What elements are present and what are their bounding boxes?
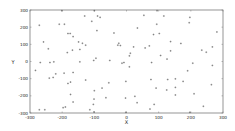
data-point-marker <box>105 97 107 99</box>
data-point-marker <box>174 87 176 89</box>
data-point-marker <box>128 66 130 68</box>
data-point-marker <box>72 36 74 38</box>
data-point-marker <box>70 81 72 83</box>
data-point-marker <box>67 83 69 85</box>
data-point-marker <box>97 15 99 17</box>
y-tick-label: -300 <box>18 111 28 116</box>
data-point-marker <box>133 46 135 48</box>
data-point-marker <box>38 24 40 26</box>
data-point-marker <box>134 95 136 97</box>
data-point-marker <box>78 41 80 43</box>
data-point-marker <box>99 16 101 18</box>
data-point-marker <box>43 41 45 43</box>
data-point-marker <box>205 51 207 53</box>
data-point-marker <box>156 23 158 25</box>
x-axis-label: X <box>125 119 129 125</box>
data-point-marker <box>58 23 60 25</box>
data-point-marker <box>72 49 74 51</box>
data-point-marker <box>89 109 91 111</box>
data-point-marker <box>144 47 146 49</box>
data-point-marker <box>82 42 84 44</box>
data-point-marker <box>93 90 95 92</box>
y-tick-label: 0 <box>25 59 28 64</box>
data-point-marker <box>39 62 41 64</box>
data-point-marker <box>95 57 97 59</box>
data-point-marker <box>69 33 71 35</box>
data-point-marker <box>170 50 172 52</box>
data-point-marker <box>163 15 165 17</box>
x-tick-label: 300 <box>219 115 227 120</box>
data-point-marker <box>182 81 184 83</box>
data-point-marker <box>96 30 98 32</box>
data-point-marker <box>153 104 155 106</box>
data-point-marker <box>150 79 152 81</box>
data-point-marker <box>52 77 54 79</box>
data-point-marker <box>38 109 40 111</box>
data-point-marker <box>216 31 218 33</box>
data-point-marker <box>113 32 115 34</box>
data-point-marker <box>202 105 204 107</box>
data-point-marker <box>92 104 94 106</box>
data-point-marker <box>53 61 55 63</box>
y-axis-ticks: -300-200-1000100200300 <box>18 8 223 116</box>
y-axis-label: Y <box>10 59 15 65</box>
y-tick-label: -200 <box>18 93 28 98</box>
data-point-marker <box>35 70 37 72</box>
data-point-marker <box>180 43 182 45</box>
x-tick-label: -200 <box>57 115 67 120</box>
data-point-marker <box>44 109 46 111</box>
data-points <box>35 10 218 113</box>
data-point-marker <box>101 87 103 89</box>
y-tick-label: -100 <box>18 76 28 81</box>
x-tick-label: 200 <box>187 115 195 120</box>
data-point-marker <box>148 45 150 47</box>
data-point-marker <box>160 55 162 57</box>
data-point-marker <box>137 27 139 29</box>
data-point-marker <box>79 61 81 63</box>
data-point-marker <box>211 65 213 67</box>
data-point-marker <box>109 60 111 62</box>
data-point-marker <box>49 62 51 64</box>
data-point-marker <box>166 58 168 60</box>
data-point-marker <box>170 41 172 43</box>
data-point-marker <box>149 108 151 110</box>
data-point-marker <box>155 87 157 89</box>
data-point-marker <box>63 72 65 74</box>
data-point-marker <box>64 106 66 108</box>
data-point-marker <box>136 102 138 104</box>
data-point-marker <box>211 84 213 86</box>
data-point-marker <box>193 93 195 95</box>
data-point-marker <box>123 62 125 64</box>
y-tick-label: 100 <box>20 42 28 47</box>
scatter-chart: -300-200-1000100200300 -300-200-10001002… <box>0 0 235 131</box>
data-point-marker <box>125 81 127 83</box>
data-point-marker <box>93 98 95 100</box>
data-point-marker <box>119 45 121 47</box>
data-point-marker <box>72 101 74 103</box>
data-point-marker <box>174 78 176 80</box>
data-point-marker <box>70 94 72 96</box>
data-point-marker <box>47 48 49 50</box>
data-point-marker <box>64 23 66 25</box>
data-point-marker <box>55 73 57 75</box>
data-point-marker <box>189 16 191 18</box>
plot-border <box>30 10 223 113</box>
y-tick-label: 200 <box>20 25 28 30</box>
data-point-marker <box>143 14 145 16</box>
data-point-marker <box>188 22 190 24</box>
x-tick-label: 100 <box>155 115 163 120</box>
x-axis-ticks: -300-200-1000100200300 <box>25 10 227 120</box>
data-point-marker <box>85 79 87 81</box>
data-point-marker <box>201 49 203 51</box>
data-point-marker <box>118 42 120 44</box>
data-point-marker <box>187 70 189 72</box>
data-point-marker <box>85 44 87 46</box>
data-point-marker <box>84 15 86 17</box>
data-point-marker <box>91 20 93 22</box>
data-point-marker <box>72 72 74 74</box>
data-point-marker <box>151 62 153 64</box>
data-point-marker <box>174 94 176 96</box>
data-point-marker <box>211 46 213 48</box>
data-point-marker <box>121 62 123 64</box>
data-point-marker <box>128 55 130 57</box>
